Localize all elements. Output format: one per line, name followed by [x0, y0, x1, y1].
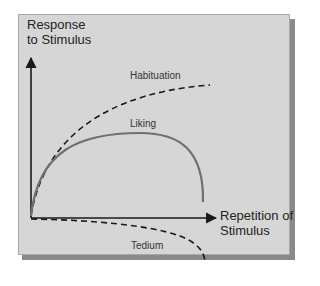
- x-axis-label-line1: Repetition of: [220, 208, 293, 223]
- y-axis-label: Response to Stimulus: [27, 17, 91, 47]
- liking-label: Liking: [130, 118, 156, 130]
- tedium-curve: [31, 219, 205, 261]
- x-axis-label: Repetition of Stimulus: [220, 208, 293, 238]
- tedium-label: Tedium: [131, 240, 163, 252]
- y-axis-label-line2: to Stimulus: [27, 32, 91, 47]
- x-axis-label-line2: Stimulus: [220, 223, 293, 238]
- habituation-curve: [31, 85, 210, 216]
- y-axis-label-line1: Response: [27, 17, 91, 32]
- habituation-label: Habituation: [130, 70, 181, 82]
- liking-curve: [31, 133, 203, 216]
